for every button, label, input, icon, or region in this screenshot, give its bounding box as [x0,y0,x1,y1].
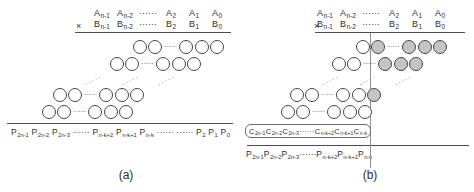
discarded-partial-product-circle [402,40,416,54]
partial-product-circle [327,105,341,119]
partial-product-circle [195,40,209,54]
multiplicand-row: An-1An-2······A2A1A0 [91,8,228,18]
partial-product-circle [119,105,133,119]
p-n-k+2-label: Pn-k+2 [92,127,113,137]
p-2n-3-label: P2n-3 [282,149,300,159]
p-1-label: P1 [208,127,217,137]
a-1-label: A1 [183,8,205,18]
operand-underline [315,32,465,33]
caption-b: (b) [350,168,390,182]
b-1-label: B1 [406,19,428,29]
partial-product-row: ····· [133,39,225,54]
a-n-1-label: An-1 [91,8,113,18]
caption-a: (a) [106,168,146,182]
p-0-label: P0 [220,127,229,137]
p-n-k+1-label: Pn-k+1 [116,127,137,137]
a-2-label: A2 [160,8,182,18]
correction-vector-box: C2n-1C2n-2C2n-3······Cn-k+2Cn-k+1Cn-k [245,124,371,138]
a-1-label: A1 [406,8,428,18]
partial-product-row: ····· [281,104,373,119]
partial-product-circle [290,88,304,102]
ellipsis-dots: ····· [387,39,401,54]
partial-product-circle [179,40,193,54]
ellipsis-dots: ······ [137,8,159,18]
ellipsis-dots: ······ [73,127,90,137]
product-bits-row: P2n-1P2n-2P2n-3······Pn-k+2Pn-k+1Pn-k [246,149,371,159]
partial-product-circle [347,57,361,71]
p-2n-1-label: P2n-1 [11,127,29,137]
multiplier-row: Bn-1Bn-2······B2B1B0 [314,19,451,29]
partial-product-circle [115,88,129,102]
a-2-label: A2 [383,8,405,18]
partial-product-circle [42,105,56,119]
partial-product-row: ····· [290,87,382,102]
discarded-partial-product-circle [394,57,408,71]
b-1-label: B1 [183,19,205,29]
multiplicand-row: An-1An-2······A2A1A0 [314,8,451,18]
c-n-k+1-label: Cn-k+1 [334,127,353,136]
partial-product-circle [281,105,295,119]
discarded-partial-product-circle [371,40,385,54]
b-n-2-label: Bn-2 [114,19,136,29]
diagonal-ellipsis: ····· [393,72,413,89]
partial-product-circle [133,40,147,54]
ellipsis-dots: ····· [321,87,335,102]
b-n-1-label: Bn-1 [91,19,113,29]
ellipsis-dots: ······ [299,127,314,136]
partial-product-circle [305,88,319,102]
p-2n-2-label: P2n-2 [264,149,282,159]
partial-product-row: ····· [332,56,424,71]
partial-product-circle [57,105,71,119]
c-2n-2-label: C2n-2 [266,127,282,136]
c-2n-1-label: C2n-1 [249,127,265,136]
multiply-sign: × [76,21,81,31]
discarded-partial-product-circle [433,40,447,54]
a-n-1-label: An-1 [314,8,336,18]
partial-product-circle [172,57,186,71]
ellipsis-dots: ····· [73,104,87,119]
b-n-1-label: Bn-1 [314,19,336,29]
a-n-2-label: An-2 [337,8,359,18]
partial-product-row: ····· [53,87,145,102]
b-n-2-label: Bn-2 [337,19,359,29]
partial-product-circle [356,40,370,54]
c-n-k-label: Cn-k [354,127,367,136]
partial-product-circle [104,105,118,119]
diagonal-ellipsis: ····· [156,72,176,89]
product-line [7,123,233,124]
partial-product-circle [210,40,224,54]
partial-product-circle [130,88,144,102]
p-n-k+2-label: Pn-k+2 [316,149,337,159]
ellipsis-dots: ····· [164,39,178,54]
partial-product-circle [99,88,113,102]
multiplier-row: Bn-1Bn-2······B2B1B0 [91,19,228,29]
ellipsis-dots: ····· [312,104,326,119]
ellipsis-dots: ····· [363,56,377,71]
partial-product-circle [296,105,310,119]
discarded-partial-product-circle [367,88,381,102]
p-2n-1-label: P2n-1 [246,149,264,159]
ellipsis-dots: ······ [360,19,382,29]
partial-product-row: ····· [356,39,448,54]
ellipsis-dots: ······ [360,8,382,18]
partial-product-circle [336,88,350,102]
ellipsis-dots: ······ [299,149,316,159]
p-n-k+1-label: Pn-k+1 [337,149,358,159]
a-n-2-label: An-2 [114,8,136,18]
partial-product-row: ····· [110,56,202,71]
partial-product-circle [53,88,67,102]
partial-product-row: ····· [42,104,134,119]
partial-product-circle [68,88,82,102]
discarded-partial-product-circle [418,40,432,54]
figure-panel-a: An-1An-2······A2A1A0 × Bn-1Bn-2······B2B… [0,0,237,192]
figure-panel-b: An-1An-2······A2A1A0 × Bn-1Bn-2······B2B… [237,0,474,192]
a-0-label: A0 [429,8,451,18]
b-2-label: B2 [383,19,405,29]
ellipsis-dots: ······ [157,127,174,137]
b-2-label: B2 [160,19,182,29]
p-n-k-label: Pn-k [140,127,154,137]
operand-underline [75,32,231,33]
partial-product-circle [343,105,357,119]
discarded-partial-product-circle [378,57,392,71]
discarded-partial-product-circle [409,57,423,71]
